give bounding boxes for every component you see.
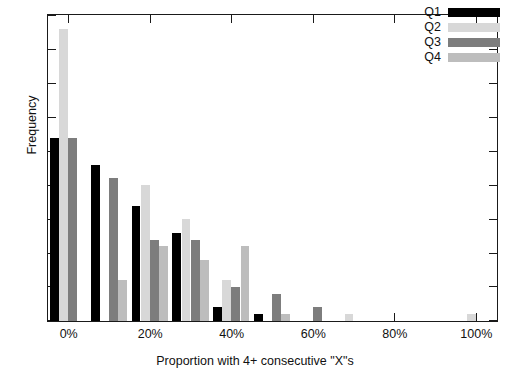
y-axis-tick: [489, 117, 497, 118]
x-axis-tick-label: 80%: [365, 327, 425, 341]
bar-q1-0: [50, 138, 59, 321]
legend-swatch-q2: [448, 23, 500, 32]
x-axis-tick-label: 60%: [283, 327, 343, 341]
y-axis-tick: [489, 253, 497, 254]
bar-q1-50: [254, 314, 263, 321]
y-axis-tick: [48, 117, 56, 118]
legend-label-q3: Q3: [424, 36, 441, 49]
x-axis-tick: [394, 15, 395, 23]
y-axis-tick: [489, 151, 497, 152]
x-axis-label: Proportion with 4+ consecutive "X"s: [0, 354, 510, 368]
legend-item-q3: Q3: [424, 36, 500, 49]
x-axis-tick-label: 100%: [446, 327, 506, 341]
x-axis-tick: [394, 313, 395, 321]
legend-swatch-q4: [448, 53, 500, 62]
bar-q2-30: [182, 219, 191, 321]
x-axis-tick: [476, 313, 477, 321]
bar-q3-0: [68, 138, 77, 321]
bar-q4-10: [118, 280, 127, 321]
bar-q2-0: [59, 29, 68, 321]
legend-label-q1: Q1: [424, 6, 441, 19]
chart-legend: Q1 Q2 Q3 Q4: [424, 6, 500, 64]
legend-label-q4: Q4: [424, 51, 441, 64]
x-axis-tick: [150, 15, 151, 23]
x-axis-tick-label: 40%: [202, 327, 262, 341]
bar-q2-20: [141, 185, 150, 321]
bar-q1-20: [132, 206, 141, 321]
bar-q4-40: [241, 246, 250, 321]
bar-q2-100: [467, 314, 476, 321]
legend-item-q1: Q1: [424, 6, 500, 19]
bar-q3-20: [150, 240, 159, 321]
bar-q4-20: [159, 246, 168, 321]
y-axis-tick: [489, 83, 497, 84]
x-axis-tick-label: 0%: [39, 327, 99, 341]
y-axis-tick: [489, 320, 497, 321]
bar-q3-60: [313, 307, 322, 321]
legend-swatch-q1: [448, 8, 500, 17]
bar-q2-70: [345, 314, 354, 321]
bar-q1-10: [91, 165, 100, 321]
bar-q3-40: [231, 287, 240, 321]
bar-q2-40: [222, 280, 231, 321]
bar-q3-50: [272, 294, 281, 321]
y-axis-tick: [48, 15, 56, 16]
y-axis-label: Frequency: [25, 55, 39, 195]
bar-chart: Frequency Proportion with 4+ consecutive…: [0, 0, 510, 375]
x-axis-tick: [231, 15, 232, 23]
bar-q4-30: [200, 260, 209, 321]
y-axis-tick: [489, 185, 497, 186]
bar-q3-10: [109, 178, 118, 321]
legend-item-q2: Q2: [424, 21, 500, 34]
y-axis-tick: [48, 49, 56, 50]
legend-swatch-q3: [448, 38, 500, 47]
legend-label-q2: Q2: [424, 21, 441, 34]
bar-q1-30: [172, 233, 181, 321]
bar-q3-30: [191, 240, 200, 321]
y-axis-tick: [489, 219, 497, 220]
x-axis-tick: [68, 15, 69, 23]
y-axis-tick: [48, 83, 56, 84]
x-axis-tick-label: 20%: [120, 327, 180, 341]
x-axis-tick: [313, 15, 314, 23]
bar-q4-50: [281, 314, 290, 321]
bar-q1-40: [213, 307, 222, 321]
legend-item-q4: Q4: [424, 51, 500, 64]
y-axis-tick: [489, 286, 497, 287]
